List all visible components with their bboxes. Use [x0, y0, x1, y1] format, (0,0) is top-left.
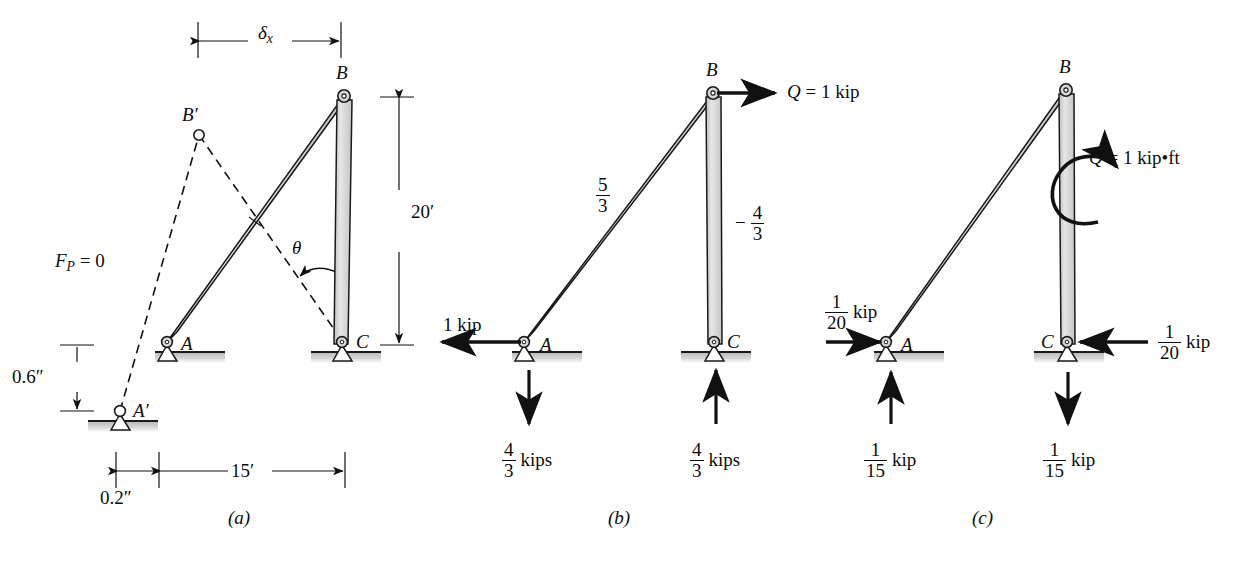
label-joint-C-b: C: [727, 331, 740, 353]
dimension-0p6in: [60, 345, 94, 411]
label-joint-B-a: B: [336, 62, 348, 84]
support-pin-C-b: [681, 337, 751, 363]
joint-Bprime-a: [194, 130, 204, 140]
label-reaction-A-vertical-b: 43kips: [502, 440, 552, 481]
caption-panel-a: (a): [228, 507, 250, 529]
joint-pin-B-a: [338, 90, 350, 102]
label-joint-C-a: C: [356, 331, 369, 353]
member-BC-b: [706, 97, 722, 344]
panel-a-geometry: [60, 22, 414, 488]
member-AB-c: [886, 89, 1070, 342]
label-joint-B-c: B: [1059, 56, 1071, 78]
label-joint-A-c: A: [901, 334, 913, 356]
figure-canvas: δx B B′ FP = 0 θ 20′ A C 0.6″ A′ 15′ 0.2…: [0, 0, 1244, 569]
label-member-force-BC-b: −43: [735, 203, 764, 244]
label-joint-B-b: B: [706, 59, 718, 81]
label-joint-C-c: C: [1041, 331, 1054, 353]
label-joint-Aprime-a: A′: [133, 400, 149, 422]
label-joint-A-b: A: [540, 334, 552, 356]
label-joint-A-a: A: [181, 333, 193, 355]
label-reaction-C-horizontal-c: 120kip: [1158, 322, 1210, 363]
label-reaction-A-horizontal-b: 1 kip: [443, 314, 482, 336]
label-offset-0p6in: 0.6″: [12, 366, 44, 388]
caption-panel-c: (c): [972, 507, 993, 529]
label-delta-x: δx: [258, 22, 273, 47]
label-reaction-C-vertical-c: 115kip: [1043, 440, 1095, 481]
label-reaction-A-horizontal-c: 120kip: [825, 292, 877, 333]
label-force-P-zero: FP = 0: [55, 250, 105, 275]
label-span-15ft: 15′: [231, 460, 254, 482]
figure-svg: [0, 0, 1244, 569]
label-theta-a: θ: [292, 237, 301, 259]
panel-b-geometry: [442, 87, 775, 424]
dimension-20ft: [380, 97, 414, 345]
theta-angle-arc: [300, 268, 339, 276]
member-AB-b: [524, 92, 718, 342]
member-BC-a: [334, 100, 352, 344]
label-joint-Bprime-a: B′: [182, 104, 198, 126]
label-load-Q-c: Q = 1 kip•ft: [1089, 147, 1180, 169]
label-reaction-C-vertical-b: 43kips: [690, 440, 740, 481]
caption-panel-b: (b): [608, 507, 630, 529]
panel-c-geometry: [826, 84, 1148, 424]
deformed-shape-dashed: [120, 135, 345, 411]
label-offset-0p2in: 0.2″: [100, 487, 132, 509]
label-height-20ft: 20′: [411, 201, 434, 223]
label-member-force-AB-b: 53: [596, 175, 610, 216]
joint-pin-B-c: [1060, 84, 1072, 96]
label-load-Q-b: Q = 1 kip: [787, 81, 859, 103]
support-pin-C-a: [311, 337, 381, 363]
label-reaction-A-vertical-c: 115kip: [864, 440, 916, 481]
